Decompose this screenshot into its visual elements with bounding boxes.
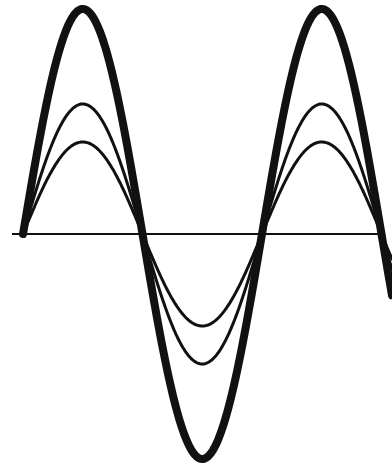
waveform-diagram: Three in-phase sine waves of differing a…	[0, 0, 392, 467]
waveform-canvas	[0, 0, 392, 467]
